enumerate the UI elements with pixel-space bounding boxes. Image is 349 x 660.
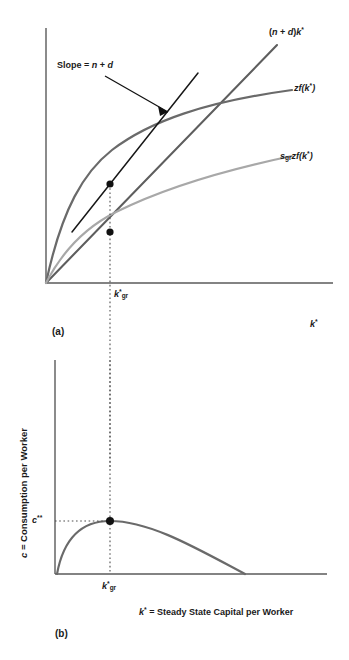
panel-a-xaxis-label: k* — [310, 318, 318, 329]
panel-a-xtick-kgr: k*gr — [114, 288, 128, 299]
figure-container: (n + d)k* zf(k*) sgrzf(k*) Slope = n + d… — [0, 0, 349, 660]
panel-a-slope-arrow — [105, 76, 168, 116]
panel-b-max-consumption-point — [106, 517, 114, 525]
panel-b-yaxis-label: c = Consumption per Worker — [18, 428, 29, 558]
panel-a-label: (a) — [52, 326, 64, 337]
panel-b-curve-consumption — [57, 521, 245, 574]
label-curve-zf: zf(k*) — [294, 82, 315, 93]
panel-a-curve-sgr-zf — [46, 156, 292, 283]
label-line-n-plus-d: (n + d)k* — [269, 26, 304, 37]
panel-a-group — [46, 28, 333, 470]
panel-a-curve-zf — [46, 90, 292, 283]
panel-a-line-n-plus-d — [46, 45, 277, 283]
panel-b-label: (b) — [55, 628, 68, 639]
panel-b-group — [55, 360, 327, 574]
label-slope-annotation: Slope = n + d — [57, 60, 113, 70]
panel-b-xtick-kgr: k*gr — [102, 580, 116, 591]
panel-b-xaxis-label: k* = Steady State Capital per Worker — [139, 606, 293, 617]
panel-a-tangent-line — [72, 73, 198, 232]
panel-b-ytick-cmax: c** — [32, 514, 42, 525]
label-curve-sgr-zf: sgrzf(k*) — [280, 150, 313, 161]
panel-a-golden-rule-output-point — [106, 180, 113, 187]
panel-a-golden-rule-investment-point — [106, 228, 113, 235]
